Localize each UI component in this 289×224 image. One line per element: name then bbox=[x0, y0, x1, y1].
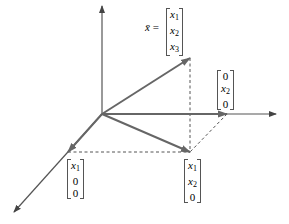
dashed-x2-to-projection bbox=[190, 114, 227, 152]
matrix-entry: x2 bbox=[188, 175, 197, 191]
matrix-entry: 0 bbox=[73, 175, 79, 187]
matrix-entry: 0 bbox=[223, 70, 229, 82]
matrix-entry: 0 bbox=[190, 191, 196, 203]
x2-component-matrix: 0 x2 0 bbox=[217, 70, 234, 110]
vector-name-label: x̄ = bbox=[145, 21, 159, 33]
matrix-entry: x2 bbox=[221, 82, 230, 98]
vector-symbol: x̄ bbox=[145, 21, 150, 33]
vector-x bbox=[102, 58, 190, 114]
dashed-guides bbox=[68, 58, 227, 152]
axes bbox=[14, 6, 276, 212]
matrix-entry: 0 bbox=[73, 187, 79, 199]
matrix-entry: x1 bbox=[170, 8, 179, 24]
xy-projection-matrix: x1 x2 0 bbox=[184, 159, 201, 203]
matrix-entry: x1 bbox=[71, 159, 80, 175]
matrix-entry: 0 bbox=[223, 98, 229, 110]
equals-sign: = bbox=[153, 21, 159, 33]
matrix-entry: x2 bbox=[170, 24, 179, 40]
matrix-entry: x1 bbox=[188, 159, 197, 175]
full-vector-matrix: x1 x2 x3 bbox=[166, 8, 183, 56]
matrix-entry: x3 bbox=[170, 40, 179, 56]
diagram-canvas bbox=[0, 0, 289, 224]
x1-component-matrix: x1 0 0 bbox=[67, 159, 84, 199]
vector-x1-component bbox=[68, 114, 102, 152]
vector-xy-projection bbox=[102, 114, 190, 152]
